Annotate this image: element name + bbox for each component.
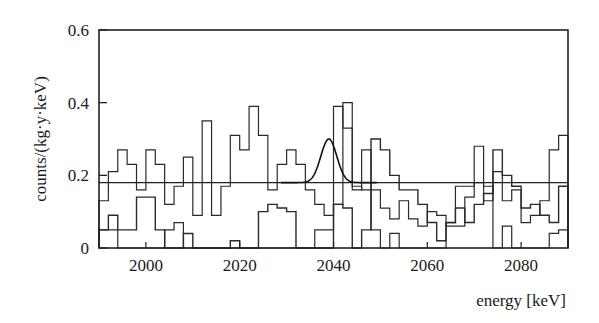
plot-area [99, 103, 568, 248]
y-axis: 00.20.40.6 [68, 21, 107, 258]
x-tick-label: 2060 [410, 256, 444, 275]
gaussian-peak-curve [281, 139, 377, 183]
x-tick-label: 2080 [504, 256, 538, 275]
y-axis-title: counts/(kg·y·keV) [31, 76, 50, 202]
x-tick-label: 2000 [129, 256, 163, 275]
chart: 00.20.40.6 20002020204020602080 counts/(… [0, 0, 599, 323]
x-tick-label: 2020 [223, 256, 257, 275]
x-axis-title: energy [keV] [476, 291, 566, 310]
y-tick-label: 0.2 [68, 166, 89, 185]
y-tick-label: 0.6 [68, 21, 89, 40]
y-tick-label: 0 [81, 239, 90, 258]
x-axis: 20002020204020602080 [129, 242, 538, 275]
x-tick-label: 2040 [317, 256, 351, 275]
y-tick-label: 0.4 [68, 94, 90, 113]
